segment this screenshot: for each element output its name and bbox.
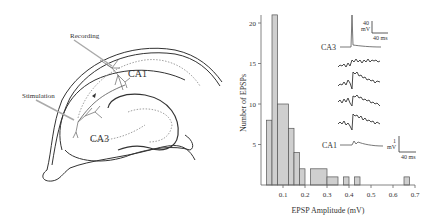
histogram-bar [278,104,289,185]
inner-boundary [65,135,193,161]
histogram-bar [344,177,350,185]
ca1-trace-label: CA1 [322,141,337,150]
histogram-bar [327,177,338,185]
ca1-neuron [100,60,130,90]
dotted-cell-layer-dg [128,109,172,142]
ca3-label: CA3 [90,133,109,144]
y-tick-label: 20 [249,20,257,28]
arrowhead-icon [92,93,96,98]
figure: Recording Stimulation CA1 CA3 5101520 0.… [0,0,439,223]
ca3-trace-label: CA3 [321,43,336,52]
y-tick-label: 10 [249,101,257,109]
ca1-trace [340,141,383,146]
dentate-gyrus [108,94,178,150]
histogram-bar [272,15,278,185]
x-tick-label: 0.1 [279,191,288,199]
histogram-bars [267,15,410,185]
x-tick-label: 0.3 [323,191,332,199]
x-tick-label: 0.2 [301,191,310,199]
histogram-bar [294,153,300,185]
outer-contour [47,48,222,170]
histogram-bar [311,169,328,185]
trace-inset: CA3 40 mV 40 ms CA1 1 mV 40 ms [321,15,416,160]
histogram-bar [355,177,361,185]
histogram-bar [267,120,273,185]
ca1-label: CA1 [128,68,147,79]
recording-label: Recording [70,32,100,40]
recording-electrode [74,40,112,66]
x-tick-label: 0.6 [389,191,398,199]
ca3-scale-t: 40 ms [373,35,388,41]
stimulation-label: Stimulation [22,92,55,100]
histogram-bar [404,177,410,185]
y-ticks: 5101520 [249,20,261,150]
ca1-scale-t: 40 ms [401,154,416,160]
x-ticks: 0.10.20.30.40.50.60.7 [279,185,420,199]
ca1-scale-v-unit: mV [387,144,397,150]
x-axis-label: EPSP Amplitude (mV) [291,206,364,215]
y-tick-label: 5 [253,141,257,149]
inner-region-contour [60,70,185,150]
ca1-scale-bar [399,136,416,152]
x-tick-label: 0.5 [367,191,376,199]
ca3-scale-v-unit: mV [361,26,371,32]
x-tick-label: 0.7 [411,191,420,199]
y-tick-label: 15 [249,60,257,68]
epsp-sweeps [338,59,380,130]
ca3-scale-bar [372,21,388,33]
hippocampus-diagram: Recording Stimulation CA1 CA3 [22,32,222,181]
x-tick-label: 0.4 [345,191,354,199]
histogram-bar [289,128,295,185]
y-axis-label: Number of EPSPs [239,74,248,132]
histogram-bar [300,169,306,185]
stimulation-electrode [36,100,74,120]
